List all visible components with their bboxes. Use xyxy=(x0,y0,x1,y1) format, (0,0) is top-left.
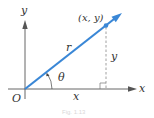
y-axis-arrow-icon xyxy=(22,20,27,29)
angle-arc xyxy=(48,74,53,89)
figure-caption: Fig. 1.13 xyxy=(62,109,85,115)
radius-label: r xyxy=(66,42,71,53)
horizontal-leg-label: x xyxy=(73,91,79,102)
x-axis-arrow-icon xyxy=(128,86,137,91)
angle-label: θ xyxy=(58,72,65,83)
right-angle-marker xyxy=(100,83,106,89)
x-axis-label: x xyxy=(139,83,145,94)
origin-label: O xyxy=(12,93,21,104)
point-xy xyxy=(104,23,109,28)
y-axis-label: y xyxy=(21,5,27,16)
point-label: (x, y) xyxy=(78,13,103,23)
vertical-leg-label: y xyxy=(111,51,117,62)
